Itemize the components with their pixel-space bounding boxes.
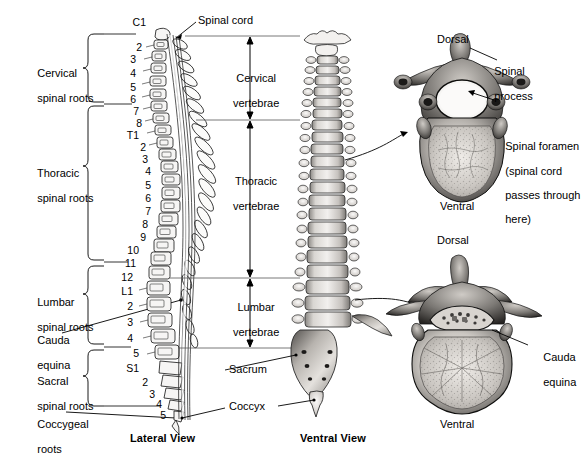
vertebra-number: 7 [135,206,151,217]
vertebra-number: 5 [150,410,166,421]
label-coccygeal-roots: Coccygeal roots [25,406,89,467]
spinal-foramen-line2: (spinal cord [505,165,562,177]
label-upper-ventral: Ventral [440,200,474,212]
vertebra-number: 4 [120,68,136,79]
vertebra-number: 3 [117,317,133,328]
label-coccyx: Coccyx [229,400,265,412]
cervical-roots-line2: spinal roots [37,92,93,104]
vertebra-number: 5 [120,82,136,93]
cauda-equina-left-line2: equina [37,359,70,371]
spinal-process-line1: Spinal [494,65,525,77]
coccygeal-roots-line1: Coccygeal [37,418,88,430]
spinal-process-line2: process [494,90,533,102]
cauda-equina-right-line2: equina [543,376,576,388]
thoracic-vertebrae-line2: vertebrae [233,200,279,212]
label-thoracic-spinal-roots: Thoracic spinal roots [25,155,94,216]
label-spinal-cord: Spinal cord [198,14,253,26]
ventral-coccyx [309,391,323,417]
vertebra-number: 10 [123,245,139,256]
vertebra-number: 5 [135,180,151,191]
lumbar-vertebrae-line1: Lumbar [237,301,274,313]
leader-to-upper-vertebra [345,131,408,160]
label-spinal-foramen: Spinal foramen (spinal cord passes throu… [493,128,580,238]
figure-canvas: Cervical spinal roots Thoracic spinal ro… [0,0,585,469]
view-name-ventral: Ventral View [300,432,366,444]
vertebra-number: 2 [132,377,148,388]
cervical-vertebrae-line1: Cervical [236,72,276,84]
vertebra-number: 4 [135,166,151,177]
lateral-spine-illustration [139,28,218,434]
vertebra-number: S1 [123,363,139,374]
label-cauda-equina-left: Cauda equina [25,322,70,383]
spinal-foramen-line4: here) [505,213,531,225]
cauda-equina-left-line1: Cauda [37,334,69,346]
spinal-foramen-line3: passes through [505,189,580,201]
vertebra-number: 11 [120,258,136,269]
vertebra-number: 6 [135,193,151,204]
view-name-lateral: Lateral View [130,432,195,444]
vertebra-number: L1 [117,286,133,297]
label-sacrum: Sacrum [229,363,267,375]
vertebra-number: 8 [126,118,142,129]
ventral-sacrum [291,330,337,400]
thoracic-roots-line1: Thoracic [37,167,79,179]
vertebra-number: 2 [117,301,133,312]
vertebra-number: T1 [123,130,139,141]
vertebra-number: 8 [132,219,148,230]
thoracic-vertebrae-line1: Thoracic [235,175,277,187]
ilium-fragment [352,315,392,336]
vertebra-number: 6 [120,94,136,105]
vertebra-number: 3 [120,54,136,65]
coccygeal-roots-line2: roots [37,443,61,455]
label-cauda-equina-right: Cauda equina [531,339,576,400]
label-thoracic-vertebrae: Thoracic vertebrae [212,163,288,224]
vertebra-number: 2 [126,42,142,53]
label-cervical-vertebrae: Cervical vertebrae [212,60,288,121]
label-cervical-spinal-roots: Cervical spinal roots [25,55,94,116]
vertebra-number: 12 [117,272,133,283]
label-lower-dorsal: Dorsal [437,234,469,246]
leader-coccyx-lateral [180,408,225,420]
vertebra-number: 3 [132,154,148,165]
lumbar-vertebrae-line2: vertebrae [233,326,279,338]
ventral-spine-illustration [291,31,392,417]
vertebra-number: C1 [130,17,146,28]
label-lower-ventral: Ventral [440,418,474,430]
label-lumbar-vertebrae: Lumbar vertebrae [212,289,288,350]
cauda-equina-right-line1: Cauda [543,351,575,363]
label-spinal-process: Spinal process [482,53,533,114]
cervical-roots-line1: Cervical [37,67,77,79]
lower-vertebra-photo [386,255,542,414]
vertebra-number: 5 [123,348,139,359]
label-upper-dorsal: Dorsal [437,33,469,45]
vertebra-number: 2 [130,142,146,153]
thoracic-roots-line2: spinal roots [37,192,93,204]
vertebra-number: 4 [117,333,133,344]
lumbar-roots-line1: Lumbar [37,296,74,308]
spinal-foramen-line1: Spinal foramen [505,140,579,152]
leader-spinal-cord [176,22,196,39]
cervical-vertebrae-line2: vertebrae [233,97,279,109]
vertebra-number: 9 [130,232,146,243]
vertebra-number: 7 [123,106,139,117]
